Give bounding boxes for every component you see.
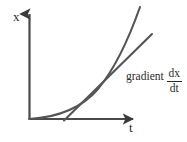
- y-axis-label: x: [13, 10, 20, 23]
- derivative-fraction: dx dt: [167, 68, 182, 94]
- derivative-numerator: dx: [167, 68, 181, 81]
- gradient-annotation-word: gradient: [126, 71, 164, 83]
- x-axis-label: t: [129, 121, 133, 134]
- figure-container: x t gradient dx dt: [0, 0, 187, 142]
- gradient-annotation: gradient dx dt: [126, 68, 182, 94]
- derivative-denominator: dt: [169, 82, 180, 95]
